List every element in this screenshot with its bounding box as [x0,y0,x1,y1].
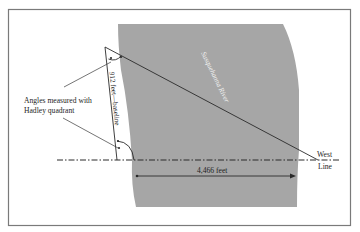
west-line-label-2: Line [318,162,333,171]
river-shape [118,24,299,207]
apex-angle-marker [110,57,112,59]
annotation-line-1: Angles measured with [24,96,92,105]
distance-label: 4,466 feet [197,166,228,175]
annotation-line-2: Hadley quadrant [24,106,75,115]
base-angle-marker [117,140,119,142]
survey-diagram: Susquehanna River Angles measured with H… [0,0,360,232]
west-line-label-1: West [317,150,333,159]
base-angle-marker-2 [118,147,120,149]
distance-arrow-start-dot [136,175,139,178]
apex-angle-marker-2 [120,56,122,58]
